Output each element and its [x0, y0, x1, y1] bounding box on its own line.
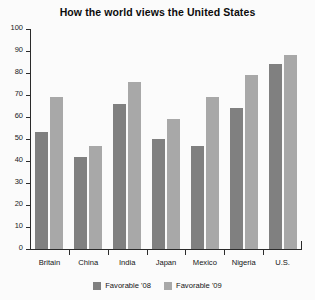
bar: [191, 146, 204, 249]
y-axis-tick-label: 90: [15, 45, 23, 54]
y-axis-tick-mark: [26, 161, 30, 162]
axis-right-stub: [301, 241, 302, 250]
legend-swatch-icon: [164, 282, 172, 290]
bar: [152, 139, 165, 249]
bar: [269, 64, 282, 249]
legend-entry[interactable]: Favorable '09: [164, 281, 222, 290]
legend-label: Favorable '08: [105, 281, 151, 290]
x-axis-tick-mark: [185, 250, 186, 255]
bar: [74, 157, 87, 249]
y-axis-tick-label: 30: [15, 177, 23, 186]
y-axis-tick-label: 20: [15, 199, 23, 208]
y-axis-tick-label: 10: [15, 221, 23, 230]
y-axis-tick-label: 40: [15, 155, 23, 164]
legend-swatch-icon: [93, 282, 101, 290]
y-axis-tick-label: 70: [15, 89, 23, 98]
y-axis-tick-mark: [26, 183, 30, 184]
chart-legend: Favorable '08Favorable '09: [0, 281, 315, 290]
y-axis-tick-mark: [26, 139, 30, 140]
bar: [113, 104, 126, 249]
y-axis-tick-label: 80: [15, 67, 23, 76]
bar: [245, 75, 258, 249]
y-axis-tick-mark: [26, 29, 30, 30]
bar: [206, 97, 219, 249]
x-axis-category-label: Nigeria: [224, 258, 263, 267]
x-axis-category-label: Britain: [30, 258, 69, 267]
x-axis-line: [30, 249, 302, 250]
legend-label: Favorable '09: [176, 281, 222, 290]
y-axis-tick-mark: [26, 117, 30, 118]
bar: [128, 82, 141, 249]
bar: [89, 146, 102, 249]
y-axis-tick-mark: [26, 51, 30, 52]
x-axis-tick-mark: [263, 250, 264, 255]
y-axis-tick-mark: [26, 227, 30, 228]
x-axis-category-label: Japan: [147, 258, 186, 267]
x-axis-category-label: India: [108, 258, 147, 267]
x-axis-tick-mark: [69, 250, 70, 255]
chart-figure: How the world views the United States 01…: [0, 0, 315, 300]
y-axis-line: [30, 29, 31, 249]
bar: [167, 119, 180, 249]
y-axis-tick-mark: [26, 95, 30, 96]
y-axis-tick-label: 50: [15, 133, 23, 142]
y-axis-tick-mark: [26, 205, 30, 206]
y-axis-tick-label: 0: [19, 243, 23, 252]
x-axis-tick-mark: [108, 250, 109, 255]
y-axis-tick-label: 100: [10, 23, 23, 32]
legend-entry[interactable]: Favorable '08: [93, 281, 151, 290]
x-axis-category-label: U.S.: [263, 258, 302, 267]
bar: [35, 132, 48, 249]
y-axis-tick-mark: [26, 73, 30, 74]
bar: [50, 97, 63, 249]
bar: [230, 108, 243, 249]
bar: [284, 55, 297, 249]
x-axis-category-label: China: [69, 258, 108, 267]
y-axis-tick-label: 60: [15, 111, 23, 120]
x-axis-category-label: Mexico: [185, 258, 224, 267]
chart-title: How the world views the United States: [0, 6, 315, 18]
plot-area: 0102030405060708090100 BritainChinaIndia…: [30, 29, 302, 249]
y-axis-tick-mark: [26, 249, 30, 250]
x-axis-tick-mark: [224, 250, 225, 255]
x-axis-tick-mark: [147, 250, 148, 255]
